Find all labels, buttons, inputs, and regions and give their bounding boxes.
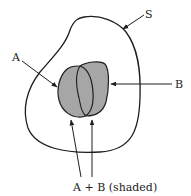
set-a-region — [58, 66, 93, 117]
arrow-union-left — [71, 120, 81, 177]
label-a: A — [11, 51, 21, 64]
set-diagram: S A B A + B (shaded) — [0, 0, 191, 196]
label-s: S — [145, 8, 153, 21]
arrow-s — [123, 15, 144, 29]
label-b: B — [175, 78, 183, 91]
label-union: A + B (shaded) — [72, 181, 157, 194]
arrow-a — [22, 61, 57, 87]
